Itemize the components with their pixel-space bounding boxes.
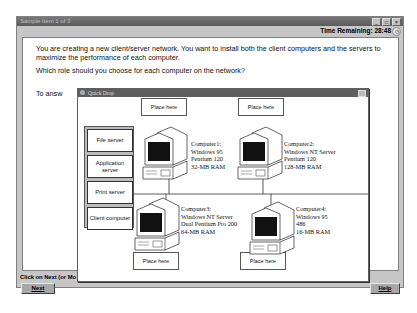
time-remaining: Time Remaining: 28:48	[320, 27, 391, 34]
computer3-os: Windows NT Server	[181, 213, 237, 221]
computer4-cpu: 486	[296, 220, 330, 228]
title-bar[interactable]: Sample Item 1 of 3 _ □ ×	[17, 17, 403, 26]
computer2-name: Computer2:	[284, 140, 336, 148]
quick-drop-dialog: Quick Drop File server Application serve…	[77, 88, 369, 282]
computer2-os: Windows NT Server	[284, 148, 336, 156]
window-title: Sample Item 1 of 3	[20, 17, 70, 26]
computer2-icon	[238, 127, 282, 179]
question-paragraph-1: You are creating a new client/server net…	[36, 44, 391, 62]
computer2-ram: 128-MB RAM	[284, 163, 336, 171]
time-remaining-label: Time Remaining:	[320, 27, 372, 34]
help-button-label: Help	[378, 285, 391, 291]
computer4-os: Windows 95	[296, 213, 330, 221]
computer4-info: Computer4: Windows 95 486 16-MB RAM	[296, 205, 330, 235]
computer4-name: Computer4:	[296, 205, 330, 213]
status-instruction: Click on Next (or Mo	[20, 274, 76, 280]
computer1-os: Windows 95	[191, 148, 225, 156]
next-button-label: Next	[31, 285, 44, 291]
computer3-info: Computer3: Windows NT Server Dual Pentiu…	[181, 205, 237, 235]
computer1-icon	[143, 127, 187, 179]
computer3-ram: 64-MB RAM	[181, 228, 237, 236]
close-button[interactable]: ×	[392, 18, 401, 26]
minimize-button[interactable]: _	[372, 18, 381, 26]
computer3-cpu: Dual Pentium Pro 200	[181, 220, 237, 228]
help-button[interactable]: Help	[370, 283, 400, 294]
computer4-icon	[250, 202, 294, 254]
computer1-info: Computer1: Windows 95 Pentium 120 32-MB …	[191, 140, 225, 170]
timer-bar: Time Remaining: 28:48 ◷	[17, 26, 403, 36]
computer1-ram: 32-MB RAM	[191, 163, 225, 171]
computer3-name: Computer3:	[181, 205, 237, 213]
computer2-info: Computer2: Windows NT Server Pentium 120…	[284, 140, 336, 170]
time-remaining-value: 28:48	[374, 27, 391, 34]
computer2-cpu: Pentium 120	[284, 155, 336, 163]
computer1-name: Computer1:	[191, 140, 225, 148]
next-button[interactable]: Next	[21, 283, 55, 294]
clock-icon: ◷	[392, 27, 401, 36]
maximize-button[interactable]: □	[382, 18, 391, 26]
network-diagram	[78, 89, 368, 281]
question-paragraph-2: Which role should you choose for each co…	[36, 66, 391, 75]
computer3-icon	[135, 198, 179, 250]
computer1-cpu: Pentium 120	[191, 155, 225, 163]
computer4-ram: 16-MB RAM	[296, 228, 330, 236]
